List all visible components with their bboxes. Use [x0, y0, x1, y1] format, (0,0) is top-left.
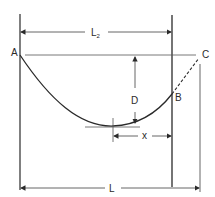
point-b-label: B	[175, 92, 182, 103]
x-label: x	[142, 130, 147, 141]
cable-sag-diagram: L2 D x L A B C	[0, 0, 215, 197]
d-label: D	[131, 95, 138, 106]
l-label: L	[109, 183, 115, 194]
cable-curve	[20, 55, 172, 126]
point-a-label: A	[11, 47, 18, 58]
point-c-label: C	[202, 49, 209, 60]
dashed-extension-b-c	[172, 58, 199, 94]
l2-label: L2	[91, 27, 101, 39]
